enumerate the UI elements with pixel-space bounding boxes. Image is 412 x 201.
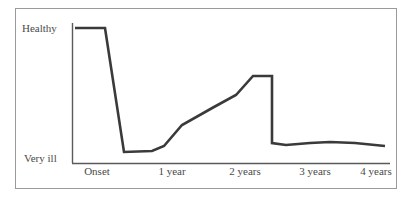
chart-page: Healthy Very ill Onset 1 year 2 years 3 … [0, 0, 412, 201]
x-axis-tick-3-years: 3 years [299, 166, 330, 177]
x-axis-tick-4-years: 4 years [360, 166, 391, 177]
plot-area: Healthy Very ill Onset 1 year 2 years 3 … [0, 0, 412, 201]
x-axis-tick-2-years: 2 years [229, 166, 260, 177]
y-axis-label-very-ill: Very ill [24, 153, 57, 164]
trajectory-plot-svg [0, 0, 412, 201]
health-trajectory-line [75, 28, 385, 152]
x-axis-tick-onset: Onset [84, 166, 110, 177]
x-axis-tick-1-year: 1 year [158, 166, 185, 177]
y-axis-label-healthy: Healthy [22, 23, 57, 34]
